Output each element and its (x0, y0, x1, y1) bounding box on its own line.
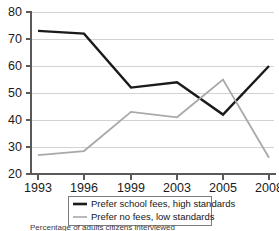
x-tick-labels: 1993 1996 1999 2003 2005 2008 (24, 181, 279, 195)
y-tick-label-50: 50 (8, 86, 22, 100)
y-tick-label-60: 60 (8, 59, 22, 73)
y-tick-labels: 80 70 60 50 40 30 20 (8, 5, 22, 181)
series-group (38, 31, 269, 158)
x-tick-label-2003: 2003 (163, 181, 191, 195)
x-tick-label-1999: 1999 (117, 181, 145, 195)
series-line-prefer-school-fees (38, 31, 269, 115)
x-tick-label-2008: 2008 (255, 181, 279, 195)
x-tick-label-2005: 2005 (209, 181, 237, 195)
y-tick-label-40: 40 (8, 113, 22, 127)
y-axis (26, 11, 31, 175)
legend-label-series-0: Prefer school fees, high standards (91, 198, 235, 209)
x-tick-label-1996: 1996 (70, 181, 98, 195)
legend: Prefer school fees, high standards Prefe… (68, 196, 235, 225)
y-tick-label-20: 20 (8, 167, 22, 181)
series-line-prefer-no-fees (38, 80, 269, 158)
x-axis (31, 174, 276, 180)
legend-label-series-1: Prefer no fees, low standards (91, 211, 215, 222)
chart-canvas: 80 70 60 50 40 30 20 1993 1996 1999 2003… (0, 0, 279, 231)
chart-caption: Percentage of adults citizens interviewe… (30, 223, 175, 231)
y-tick-label-70: 70 (8, 32, 22, 46)
line-chart: 80 70 60 50 40 30 20 1993 1996 1999 2003… (0, 0, 279, 231)
y-tick-label-30: 30 (8, 140, 22, 154)
y-tick-label-80: 80 (8, 5, 22, 19)
x-tick-label-1993: 1993 (24, 181, 52, 195)
